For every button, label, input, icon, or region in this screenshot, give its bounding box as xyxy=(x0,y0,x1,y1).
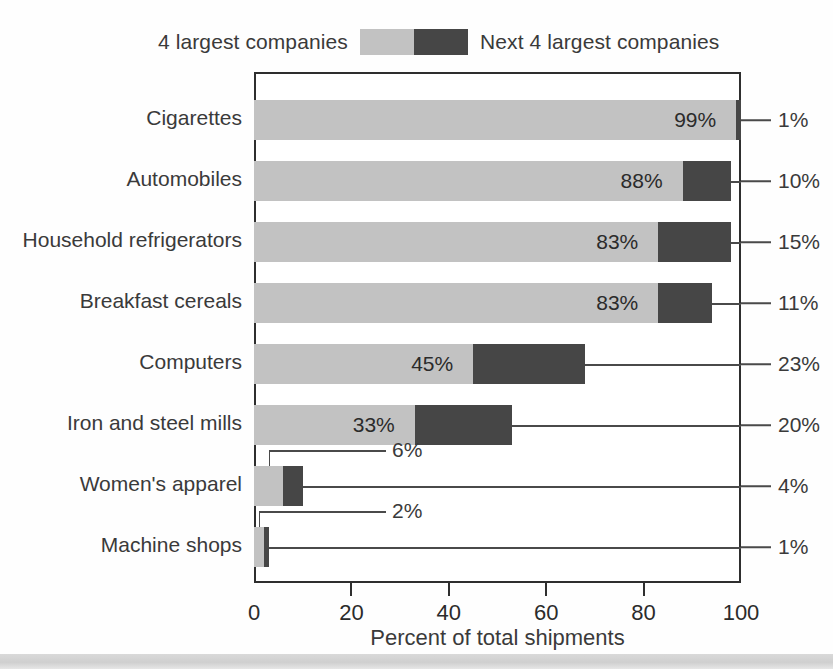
callout-leader-line xyxy=(303,486,741,488)
bar-value-label: 88% xyxy=(621,169,663,193)
callout-leader-stub xyxy=(741,546,771,548)
callout-leader-stub xyxy=(741,485,771,487)
x-axis-tick-label: 60 xyxy=(534,600,558,626)
bar-value-label: 33% xyxy=(353,413,395,437)
bracket-stem xyxy=(259,511,261,527)
x-axis-tick xyxy=(643,583,645,596)
legend-label-next-4-largest: Next 4 largest companies xyxy=(480,30,719,54)
bar-segment-4-largest[interactable] xyxy=(254,527,264,567)
right-callout-labels: 1%10%15%11%23%20%4%1% xyxy=(741,72,833,583)
right-value-label: 1% xyxy=(778,108,808,132)
chart-legend: 4 largest companies Next 4 largest compa… xyxy=(0,26,833,66)
bracket-value-label: 2% xyxy=(392,499,422,523)
callout-leader-line xyxy=(269,547,741,549)
callout-leader-line xyxy=(712,303,741,305)
bar-row[interactable]: 99% xyxy=(254,100,741,140)
category-label: Household refrigerators xyxy=(2,228,242,252)
x-axis-tick-label: 20 xyxy=(339,600,363,626)
right-value-label: 20% xyxy=(778,413,820,437)
callout-leader-stub xyxy=(741,180,771,182)
bar-row[interactable]: 83% xyxy=(254,222,741,262)
callout-leader-stub xyxy=(741,119,771,121)
bar-segment-next-4-largest[interactable] xyxy=(658,283,712,323)
bar-segment-next-4-largest[interactable] xyxy=(683,161,732,201)
bar-row[interactable]: 83% xyxy=(254,283,741,323)
category-label: Automobiles xyxy=(2,167,242,191)
plot-area: 99%88%83%83%45%33%6%2% xyxy=(254,72,741,583)
bar-segment-next-4-largest[interactable] xyxy=(283,466,302,506)
callout-leader-line xyxy=(512,425,741,427)
chart-page: 4 largest companies Next 4 largest compa… xyxy=(0,0,833,669)
category-label: Computers xyxy=(2,350,242,374)
bar-value-label: 83% xyxy=(596,291,638,315)
bracket-leader xyxy=(269,450,386,452)
bracket-value-label: 6% xyxy=(392,438,422,462)
category-label: Iron and steel mills xyxy=(2,411,242,435)
right-value-label: 1% xyxy=(778,535,808,559)
x-axis-tick-label: 40 xyxy=(437,600,461,626)
x-axis-tick xyxy=(350,583,352,596)
callout-leader-stub xyxy=(741,424,771,426)
x-axis-tick xyxy=(545,583,547,596)
category-axis-labels: CigarettesAutomobilesHousehold refrigera… xyxy=(0,72,242,583)
callout-leader-stub xyxy=(741,302,771,304)
bar-segment-next-4-largest[interactable] xyxy=(415,405,512,445)
legend-swatch-light-gray xyxy=(360,29,414,55)
bracket-stem xyxy=(269,450,271,466)
category-label: Machine shops xyxy=(2,533,242,557)
right-value-label: 11% xyxy=(778,291,818,315)
bar-segment-4-largest[interactable] xyxy=(254,100,736,140)
right-value-label: 23% xyxy=(778,352,820,376)
right-value-label: 15% xyxy=(778,230,820,254)
callout-leader-line xyxy=(585,364,741,366)
legend-label-4-largest: 4 largest companies xyxy=(158,30,348,54)
x-axis-tick-label: 0 xyxy=(248,600,260,626)
right-value-label: 10% xyxy=(778,169,820,193)
callout-leader-line xyxy=(731,242,741,244)
x-axis-tick-label: 100 xyxy=(723,600,760,626)
callout-leader-stub xyxy=(741,241,771,243)
callout-leader-stub xyxy=(741,363,771,365)
bar-segment-4-largest[interactable] xyxy=(254,161,683,201)
bar-segment-4-largest[interactable] xyxy=(254,466,283,506)
right-value-label: 4% xyxy=(778,474,808,498)
category-label: Breakfast cereals xyxy=(2,289,242,313)
category-label: Cigarettes xyxy=(2,106,242,130)
page-bottom-band xyxy=(0,654,833,669)
x-axis-title: Percent of total shipments xyxy=(254,625,741,651)
x-axis-tick-label: 80 xyxy=(631,600,655,626)
bar-value-label: 83% xyxy=(596,230,638,254)
bar-segment-next-4-largest[interactable] xyxy=(473,344,585,384)
bracket-leader xyxy=(259,511,386,513)
bar-segment-next-4-largest[interactable] xyxy=(658,222,731,262)
callout-leader-line xyxy=(731,181,741,183)
legend-swatch-dark-gray xyxy=(414,29,468,55)
bar-row[interactable]: 88% xyxy=(254,161,741,201)
category-label: Women's apparel xyxy=(2,472,242,496)
x-axis-tick xyxy=(448,583,450,596)
bar-value-label: 45% xyxy=(411,352,453,376)
bar-value-label: 99% xyxy=(674,108,716,132)
